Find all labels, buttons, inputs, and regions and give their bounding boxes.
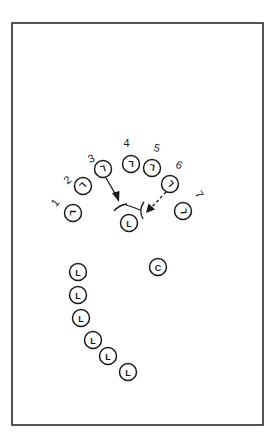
player-glyph: L — [78, 314, 84, 324]
drill-diagram: 1 L 2 L 3 L 4 L 5 L 6 L 7 L L — [0, 0, 278, 441]
target-player: L — [121, 215, 138, 232]
player-glyph: L — [105, 352, 111, 362]
waiting-player: L — [73, 310, 90, 327]
waiting-player: L — [100, 348, 117, 365]
waiting-player: L — [70, 264, 87, 281]
waiting-player: L — [70, 287, 87, 304]
player-glyph: L — [125, 368, 131, 378]
player-glyph: L — [75, 291, 81, 301]
player-glyph: L — [68, 210, 78, 216]
player-glyph: L — [128, 159, 134, 169]
player-glyph: L — [90, 336, 96, 346]
coach-glyph: C — [155, 263, 162, 273]
player-glyph: L — [75, 268, 81, 278]
coach: C — [150, 259, 167, 276]
passer-number: 4 — [124, 137, 130, 149]
waiting-player: L — [120, 364, 137, 381]
player-glyph: L — [126, 219, 132, 229]
waiting-player: L — [85, 332, 102, 349]
